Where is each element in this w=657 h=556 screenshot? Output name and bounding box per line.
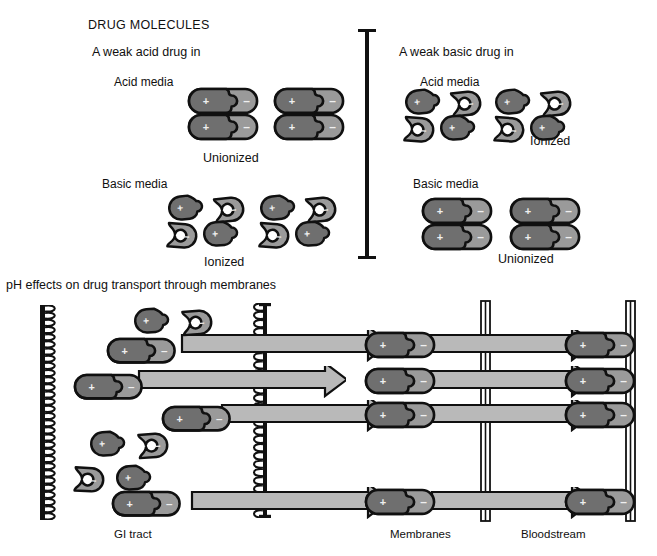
label-membranes: Membranes: [390, 528, 451, 540]
acid-drug-basic-media-ion-anion: –: [162, 219, 201, 253]
svg-text:–: –: [565, 204, 572, 218]
svg-text:+: +: [380, 339, 386, 351]
svg-text:–: –: [620, 338, 627, 352]
bloodstream-unionized: +–: [563, 330, 637, 360]
svg-text:+: +: [525, 231, 531, 243]
basic-drug-acid-media-ion-anion: –: [489, 113, 528, 147]
svg-text:+: +: [177, 202, 184, 214]
svg-text:–: –: [467, 97, 474, 110]
svg-text:+: +: [269, 202, 276, 214]
basic-drug-basic-media-unionized: +–: [420, 222, 494, 252]
gi-lumen-unionized: +–: [72, 372, 145, 401]
arrow-gi-to-membrane: [188, 487, 389, 522]
label-bloodstream: Bloodstream: [521, 528, 586, 540]
svg-text:+: +: [449, 122, 456, 133]
svg-text:+: +: [504, 96, 511, 108]
svg-text:–: –: [420, 338, 427, 352]
svg-text:–: –: [620, 408, 627, 422]
svg-text:+: +: [203, 121, 209, 133]
svg-text:–: –: [161, 344, 168, 357]
left-panel-heading: A weak acid drug in: [92, 45, 200, 59]
basic-drug-acid-media-ion-anion: –: [399, 113, 438, 147]
gi-tract-wall: [38, 305, 60, 524]
right-panel-heading: A weak basic drug in: [399, 45, 514, 59]
basic-drug-acid-media-ion-cation: +: [527, 111, 566, 145]
svg-text:–: –: [420, 124, 427, 136]
membrane-compartment-unionized: +–: [363, 330, 437, 360]
left-acid-state-label: Unionized: [203, 151, 259, 165]
svg-text:+: +: [580, 496, 586, 508]
basic-drug-acid-media-ion-cation: +: [437, 111, 476, 145]
svg-text:–: –: [154, 439, 161, 451]
svg-text:–: –: [243, 120, 250, 134]
svg-text:+: +: [99, 438, 106, 449]
transport-title: pH effects on drug transport through mem…: [6, 278, 276, 292]
bloodstream-unionized: +–: [563, 487, 637, 517]
svg-text:+: +: [380, 375, 386, 387]
gi-lumen-ion-anion: –: [177, 306, 216, 340]
svg-text:+: +: [125, 472, 132, 483]
svg-text:–: –: [275, 230, 282, 242]
bloodstream-unionized: +–: [563, 366, 637, 396]
label-gi-tract: GI tract: [114, 528, 152, 540]
acid-drug-acid-media-unionized: +–: [186, 112, 260, 142]
svg-text:–: –: [329, 120, 336, 134]
svg-text:–: –: [477, 230, 484, 244]
svg-text:+: +: [437, 205, 443, 217]
svg-text:–: –: [216, 412, 223, 425]
membrane-compartment-unionized: +–: [363, 487, 437, 517]
svg-text:+: +: [380, 409, 386, 421]
svg-text:–: –: [322, 203, 329, 216]
svg-text:+: +: [580, 409, 586, 421]
svg-text:–: –: [565, 230, 572, 244]
svg-text:–: –: [510, 124, 517, 136]
acid-drug-basic-media-ion-cation: +: [292, 217, 331, 251]
svg-text:+: +: [89, 381, 95, 393]
svg-text:+: +: [580, 375, 586, 387]
membrane-compartment-unionized: +–: [363, 366, 437, 396]
svg-text:–: –: [243, 94, 250, 108]
basic-drug-basic-media-unionized: +–: [508, 222, 582, 252]
left-basic-media-label: Basic media: [102, 177, 167, 191]
svg-text:–: –: [620, 495, 627, 509]
svg-text:+: +: [304, 228, 311, 239]
svg-text:+: +: [143, 315, 150, 326]
svg-text:+: +: [525, 205, 531, 217]
membrane-compartment-unionized: +–: [363, 400, 437, 430]
left-basic-state-label: Ionized: [204, 255, 244, 269]
acid-drug-basic-media-ion-cation: +: [200, 217, 239, 251]
svg-text:+: +: [289, 95, 295, 107]
svg-text:–: –: [420, 408, 427, 422]
page-title: DRUG MOLECULES: [88, 18, 210, 32]
gi-lumen-ion-cation: +: [87, 427, 126, 461]
svg-text:–: –: [90, 474, 97, 486]
right-basic-media-label: Basic media: [413, 177, 478, 191]
svg-text:–: –: [230, 203, 237, 216]
svg-text:+: +: [212, 228, 219, 239]
svg-text:+: +: [414, 96, 421, 108]
svg-text:+: +: [580, 339, 586, 351]
divider-bar: [365, 29, 369, 259]
gi-lumen-unionized: +–: [105, 336, 178, 365]
acid-drug-acid-media-unionized: +–: [272, 112, 346, 142]
svg-text:–: –: [620, 374, 627, 388]
acid-drug-basic-media-ion-anion: –: [254, 219, 293, 253]
svg-text:+: +: [539, 122, 546, 133]
svg-text:–: –: [420, 374, 427, 388]
svg-text:+: +: [437, 231, 443, 243]
gi-lumen-ion-anion: –: [69, 463, 108, 496]
gi-lumen-unionized: +–: [160, 404, 233, 433]
svg-text:+: +: [122, 345, 128, 357]
left-acid-media-label: Acid media: [114, 75, 173, 89]
svg-text:–: –: [329, 94, 336, 108]
gi-lumen-ion-anion: –: [133, 429, 172, 463]
gi-lumen-unionized: +–: [110, 489, 183, 518]
svg-text:–: –: [477, 204, 484, 218]
gi-lumen-ion-cation: +: [131, 304, 170, 338]
svg-text:–: –: [183, 230, 190, 242]
svg-text:+: +: [127, 498, 133, 510]
panel-divider: [358, 29, 376, 259]
right-basic-state-label: Unionized: [498, 252, 554, 266]
svg-text:–: –: [198, 316, 205, 328]
bloodstream-unionized: +–: [563, 400, 637, 430]
